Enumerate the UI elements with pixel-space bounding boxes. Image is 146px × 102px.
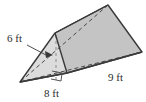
dimension-label-base: 8 ft bbox=[44, 88, 59, 99]
prism-drawing bbox=[0, 0, 146, 102]
dimension-label-height: 6 ft bbox=[7, 33, 22, 44]
triangular-prism-figure: 6 ft 8 ft 9 ft bbox=[0, 0, 146, 102]
dimension-label-length: 9 ft bbox=[108, 72, 123, 83]
